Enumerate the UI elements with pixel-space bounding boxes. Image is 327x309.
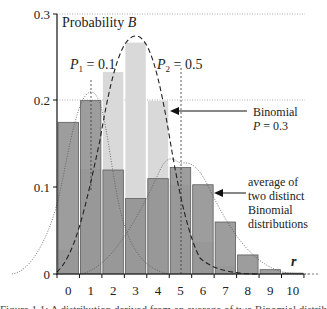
average-bar-8 [238,255,258,274]
average-annotation-line2: two distinct [248,189,305,203]
average-bar-9 [260,270,280,274]
ytick-0.2: 0.2 [34,93,50,108]
xtick-label-5: 5 [177,283,184,298]
xtick-label-8: 8 [245,283,252,298]
average-arrowhead-icon [214,189,223,197]
binomial-p-annotation: P = 0.3 [252,119,288,133]
average-bar-4 [148,179,168,274]
figure-caption: Figure 1.1: A distribution derived from … [0,300,327,309]
average-annotation-line4: distributions [248,217,308,231]
ytick-0.3: 0.3 [34,7,50,22]
average-annotation-line1: average of [248,175,298,189]
average-bar-5 [170,167,190,274]
average-bar-2 [103,170,123,274]
x-axis-variable: r [291,254,297,269]
binomial-annotation: Binomial [253,105,298,119]
binomial-arrowhead-icon [170,107,179,115]
ytick-0.1: 0.1 [34,180,50,195]
xtick-label-10: 10 [286,283,299,298]
average-bar-3 [125,199,145,274]
y-axis-label: Probability B [62,15,137,30]
p1-label: P1 = 0.1 [69,57,115,74]
average-bar-1 [80,101,100,274]
xtick-label-3: 3 [132,283,139,298]
xtick-label-4: 4 [155,283,162,298]
ytick-0: 0 [44,267,51,282]
xtick-label-1: 1 [87,283,94,298]
xtick-label-6: 6 [200,283,207,298]
xtick-label-7: 7 [222,283,229,298]
average-annotation-line3: Binomial [248,203,293,217]
p2-label: P2 = 0.5 [156,57,202,74]
xtick-label-2: 2 [110,283,117,298]
chart: 0.3 0.2 0.1 0 012345678910 Probability B… [0,0,327,309]
average-bar-0 [58,122,78,274]
xtick-label-0: 0 [65,283,72,298]
xtick-label-9: 9 [267,283,274,298]
x-tick-labels: 012345678910 [65,283,299,298]
